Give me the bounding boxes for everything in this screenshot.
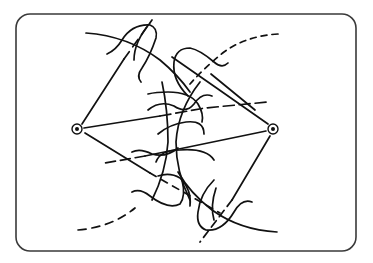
center-wave-2	[158, 122, 204, 134]
right-upper-radial	[172, 57, 268, 124]
right-bottom-arc	[178, 172, 277, 232]
left-lower-radial	[85, 133, 150, 173]
arcs-group	[78, 33, 278, 232]
wavy-curves-group	[107, 23, 252, 230]
pivot-dot	[271, 127, 275, 131]
left-middle-radial-dashed	[160, 102, 268, 116]
right-lower-radial	[232, 136, 270, 200]
left-middle-radial	[84, 116, 160, 128]
right-top-arc	[190, 34, 278, 84]
left-bottom-arc	[78, 208, 135, 230]
rounded-frame	[16, 14, 356, 251]
line-art-diagram	[0, 0, 373, 263]
pivot-dot	[75, 127, 79, 131]
lower-left-hook	[132, 180, 184, 206]
left-upper-radial	[82, 59, 124, 124]
left-mid-wave	[132, 148, 178, 155]
lower-right-hook-2	[212, 188, 216, 220]
left-pivot-icon	[72, 124, 82, 134]
right-pivot-icon	[268, 124, 278, 134]
